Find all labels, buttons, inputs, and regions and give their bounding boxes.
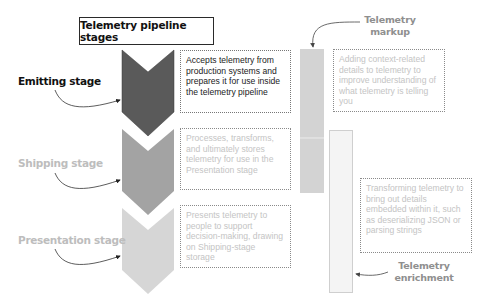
diagram-title: Telemetry pipeline stages [79, 17, 214, 45]
presentation-stage-description: Presents telemetry to people to support … [180, 205, 291, 268]
telemetry-enrichment-label-line2: enrichment [384, 272, 464, 284]
shipping-stage-chevron [122, 129, 174, 215]
presentation-stage-label: Presentation stage [18, 234, 126, 246]
telemetry-enrichment-label: Telemetry enrichment [384, 260, 464, 284]
emitting-arrow [55, 90, 120, 107]
presentation-arrow [55, 249, 120, 264]
shipping-arrow [55, 173, 120, 188]
telemetry-enrichment-label-line1: Telemetry [384, 260, 464, 272]
markup-arrow [313, 22, 360, 47]
telemetry-markup-label-line2: markup [355, 26, 425, 38]
presentation-stage-chevron [122, 208, 174, 294]
telemetry-enrichment-description: Transforming telemetry to bring out deta… [360, 178, 472, 253]
emitting-stage-chevron [122, 50, 174, 136]
telemetry-enrichment-bar [330, 131, 353, 293]
emitting-stage-label: Emitting stage [18, 75, 101, 87]
emitting-stage-description: Accepts telemetry from production system… [180, 50, 291, 113]
telemetry-markup-label: Telemetry markup [355, 14, 425, 38]
telemetry-markup-label-line1: Telemetry [355, 14, 425, 26]
telemetry-markup-bar [300, 49, 324, 193]
telemetry-markup-description: Adding context-related details to teleme… [333, 49, 445, 112]
shipping-stage-description: Processes, transforms, and ultimately st… [180, 128, 291, 190]
shipping-stage-label: Shipping stage [18, 157, 103, 169]
